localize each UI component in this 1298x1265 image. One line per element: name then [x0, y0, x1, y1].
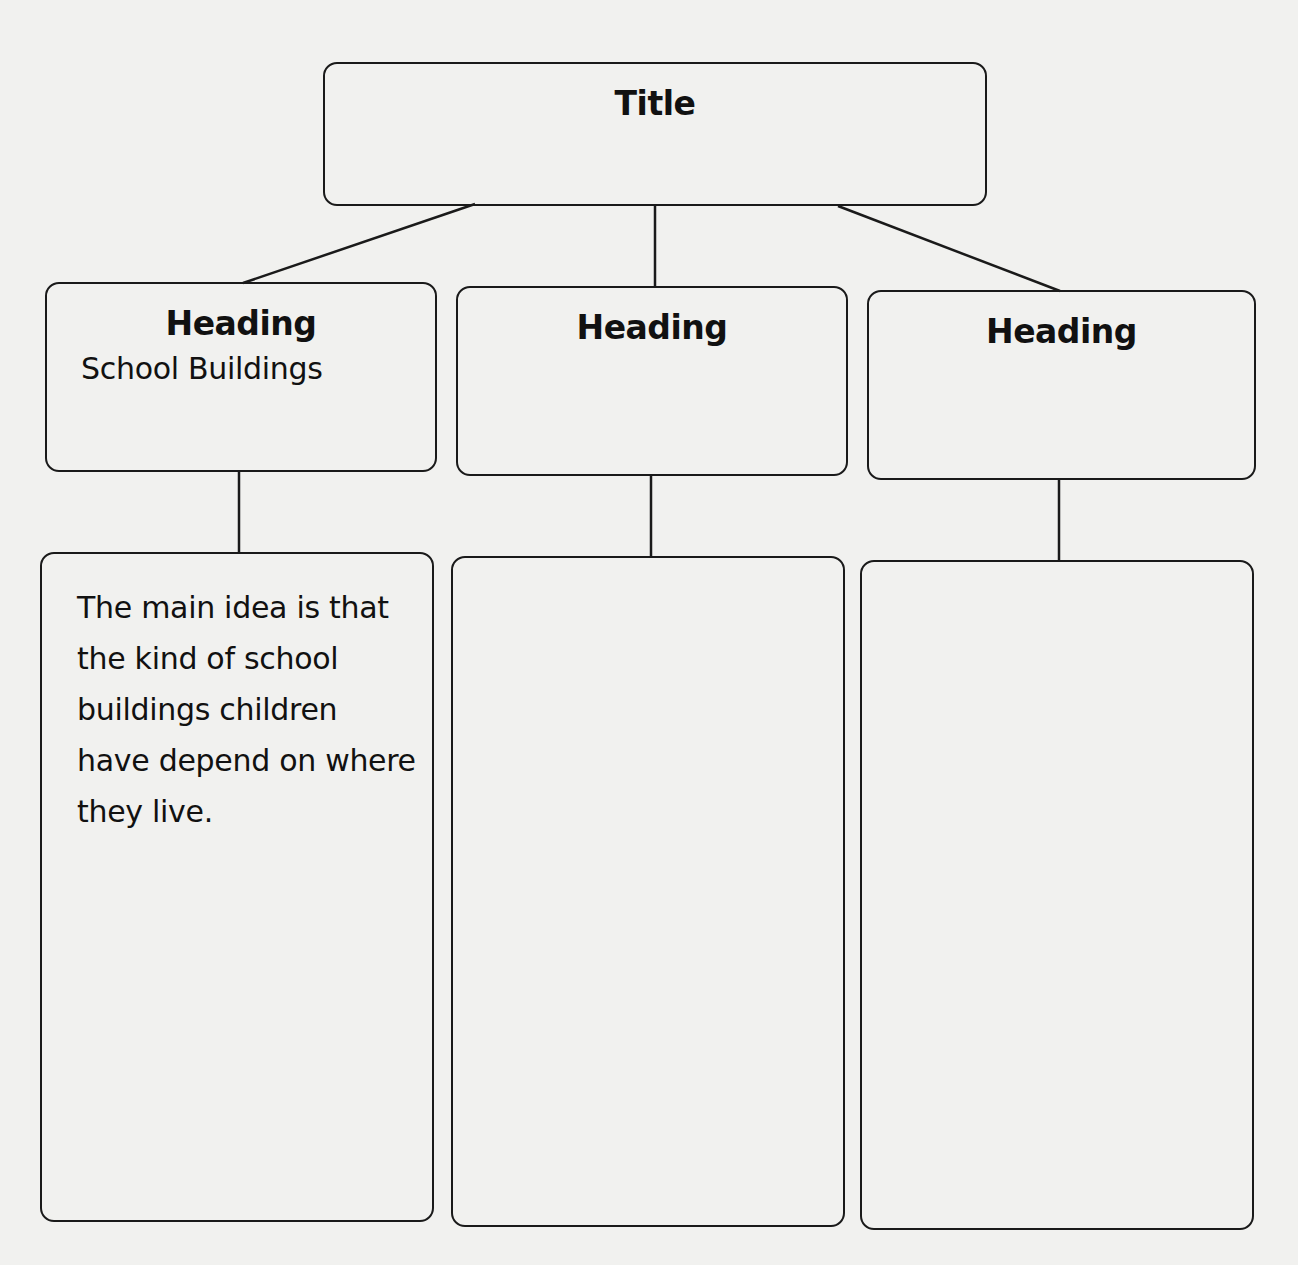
body-text-1: The main idea is that the kind of school…	[77, 582, 417, 837]
body-box-1: The main idea is that the kind of school…	[40, 552, 434, 1222]
heading-box-2: Heading	[456, 286, 848, 476]
heading-box-3: Heading	[867, 290, 1256, 480]
title-box: Title	[323, 62, 987, 206]
title-label: Title	[325, 84, 985, 123]
connector-title-to-heading-3	[838, 206, 1060, 291]
connector-title-to-heading-1	[243, 204, 475, 283]
heading-box-1: Heading School Buildings	[45, 282, 437, 472]
heading-subtext-1: School Buildings	[81, 351, 435, 386]
body-box-2	[451, 556, 845, 1227]
heading-label-1: Heading	[47, 304, 435, 343]
heading-label-3: Heading	[869, 312, 1254, 351]
body-box-3	[860, 560, 1254, 1230]
heading-label-2: Heading	[458, 308, 846, 347]
